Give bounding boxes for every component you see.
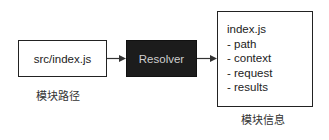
module-info-field: - path: [227, 37, 312, 52]
source-node: src/index.js: [18, 40, 107, 77]
edge-source-to-resolver: [107, 55, 126, 62]
resolver-node-label: Resolver: [139, 53, 184, 65]
source-node-label: src/index.js: [34, 53, 92, 65]
module-info-field: - request: [227, 66, 312, 81]
module-info-node: index.js - path - context - request - re…: [217, 11, 313, 107]
module-info-field: - results: [227, 80, 312, 95]
module-info-title: index.js: [227, 22, 312, 37]
module-info-caption: 模块信息: [241, 111, 285, 127]
edge-resolver-to-info: [197, 55, 217, 62]
resolver-node: Resolver: [126, 40, 197, 77]
source-caption: 模块路径: [36, 87, 80, 103]
module-info-field: - context: [227, 51, 312, 66]
arrowhead-icon: [210, 55, 217, 62]
arrowhead-icon: [119, 55, 126, 62]
